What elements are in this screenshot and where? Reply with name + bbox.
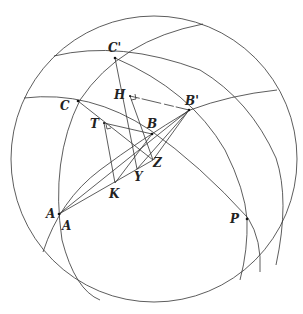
label-K: K: [109, 188, 119, 200]
label-A1: A: [46, 208, 55, 220]
label-P: P: [230, 213, 239, 225]
construction-lines: [59, 58, 189, 214]
label-A2: A: [62, 220, 71, 232]
label-H: H: [114, 89, 125, 101]
arc-CB: [24, 97, 260, 272]
label-Z: Z: [153, 157, 162, 169]
label-Y: Y: [134, 171, 143, 183]
label-T: T: [90, 118, 99, 130]
label-B: B: [147, 118, 157, 130]
label-B-prime: B': [185, 95, 199, 107]
arc-top-1: [54, 50, 283, 265]
label-C-prime: C': [108, 42, 121, 54]
arc-CpB: [115, 58, 247, 280]
label-C: C: [60, 100, 70, 112]
diagram-canvas: [0, 0, 303, 314]
arc-BpP: [43, 90, 277, 252]
spherical-diagram: C'HB'CTBZYKAAP: [0, 0, 303, 314]
